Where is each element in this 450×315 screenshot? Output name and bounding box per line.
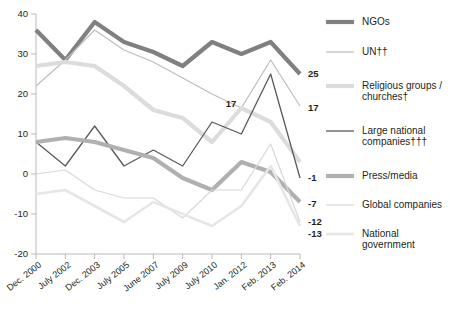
series-line xyxy=(36,144,300,222)
series-end-value-label: -7 xyxy=(308,198,316,209)
y-tick-label: 40 xyxy=(17,8,28,19)
series-end-value-label: 17 xyxy=(308,102,319,113)
y-tick-group: 403020100-10-20 xyxy=(14,8,36,259)
x-tick-label: Dec. 2000 xyxy=(5,260,43,293)
x-axis-group xyxy=(36,254,300,259)
y-tick-label: 0 xyxy=(23,168,28,179)
annotation-group: 17 xyxy=(226,98,237,109)
series-group xyxy=(36,22,300,226)
x-tick-group xyxy=(36,254,300,259)
y-tick-label: 30 xyxy=(17,48,28,59)
series-line xyxy=(36,138,300,202)
legend-item-label: UN†† xyxy=(362,46,388,57)
y-tick-label: 10 xyxy=(17,128,28,139)
legend-item-label: Religious groups / xyxy=(362,80,442,91)
series-end-value-label: -1 xyxy=(308,172,317,183)
legend-item-label: Press/media xyxy=(362,170,418,181)
legend-item-label: National xyxy=(362,228,399,239)
legend-item-label: Global companies xyxy=(362,199,442,210)
series-line xyxy=(36,166,300,226)
legend-item-label: government xyxy=(362,239,415,250)
y-tick-label: 20 xyxy=(17,88,28,99)
legend-item-label: companies††† xyxy=(362,136,427,147)
trust-trend-line-chart: 403020100-10-20 2517-1-7-12-13 17 Dec. 2… xyxy=(0,0,450,315)
series-line xyxy=(36,22,300,74)
legend-item-label: NGOs xyxy=(362,16,390,27)
series-end-value-label: -13 xyxy=(308,228,322,239)
end-value-label-group: 2517-1-7-12-13 xyxy=(308,68,322,239)
y-tick-label: -20 xyxy=(14,248,28,259)
chart-legend: NGOsUN††Religious groups /churches†Large… xyxy=(326,16,442,250)
legend-item-label: churches† xyxy=(362,91,408,102)
series-end-value-label: 25 xyxy=(308,68,319,79)
series-line xyxy=(36,74,300,178)
data-point-annotation: 17 xyxy=(226,98,237,109)
y-axis-group: 403020100-10-20 xyxy=(14,8,36,259)
y-tick-label: -10 xyxy=(14,208,28,219)
series-end-value-label: -12 xyxy=(308,216,322,227)
x-tick-label-group: Dec. 2000July 2002Dec. 2003July 2005June… xyxy=(5,260,307,294)
chart-container: 403020100-10-20 2517-1-7-12-13 17 Dec. 2… xyxy=(0,0,450,315)
legend-item-label: Large national xyxy=(362,125,425,136)
